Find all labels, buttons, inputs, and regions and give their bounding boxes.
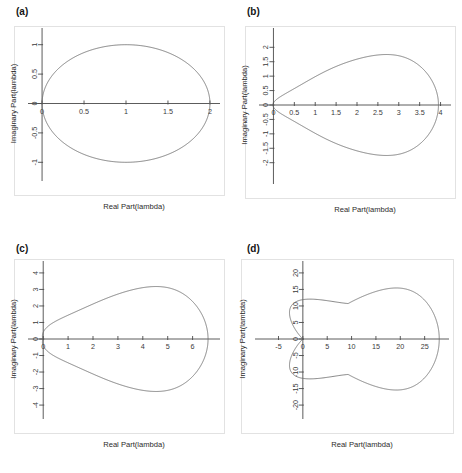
x-tick-label: 6 — [191, 342, 195, 351]
x-tick-label: 1.5 — [331, 108, 341, 117]
x-tick-label: 15 — [372, 342, 380, 351]
y-tick-label: -15 — [291, 383, 300, 393]
panel-b-plot: 00.511.522.533.5421.510.50-0.5-1-1.5-2Re… — [231, 0, 462, 236]
panel-c: (c) 012345643210-1-2-3-4Real Part(lambda… — [0, 237, 231, 473]
stability-region-figure: (a) 00.511.5210.50-0.5-1Real Part(lambda… — [0, 0, 462, 473]
y-tick-label: -0.5 — [261, 113, 270, 125]
x-tick-label: 1 — [124, 107, 128, 116]
y-tick-label: -2 — [31, 369, 40, 375]
x-tick-label: 1 — [66, 342, 70, 351]
x-tick-label: 4 — [141, 342, 145, 351]
y-tick-label: 2 — [31, 304, 40, 308]
y-tick-label: 1 — [261, 74, 270, 78]
y-tick-label: 1.5 — [261, 57, 270, 67]
y-axis-title: Imaginary Part(lambda) — [9, 63, 18, 143]
y-tick-label: 3 — [31, 287, 40, 291]
y-tick-label: -4 — [31, 402, 40, 408]
y-tick-label: -20 — [291, 400, 300, 410]
y-tick-label: 1 — [30, 43, 39, 47]
y-tick-label: -1.5 — [261, 142, 270, 154]
y-tick-label: 0.5 — [261, 86, 270, 96]
y-tick-label: 1 — [31, 320, 40, 324]
x-tick-label: 10 — [348, 342, 356, 351]
x-tick-label: 1 — [313, 108, 317, 117]
y-tick-label: 0 — [261, 103, 270, 107]
x-tick-label: 4 — [439, 108, 443, 117]
x-tick-label: 20 — [396, 342, 404, 351]
y-tick-label: 2 — [261, 45, 270, 49]
x-tick-label: 5 — [166, 342, 170, 351]
x-tick-label: 0.5 — [289, 108, 299, 117]
panel-d: (d) -5051015202520151050-5-10-15-20Real … — [231, 237, 462, 473]
y-tick-label: -1 — [30, 159, 39, 165]
y-axis-title: Imaginary Part(lambda) — [240, 65, 249, 145]
x-tick-label: 0.5 — [79, 107, 89, 116]
y-axis-title: Imaginary Part(lambda) — [9, 299, 18, 379]
x-tick-label: -5 — [275, 342, 281, 351]
panel-a-plot: 00.511.5210.50-0.5-1Real Part(lambda)Ima… — [0, 0, 231, 236]
y-tick-label: 0 — [30, 102, 39, 106]
x-tick-label: 1.5 — [163, 107, 173, 116]
y-tick-label: 0 — [291, 337, 300, 341]
x-tick-label: 3.5 — [415, 108, 425, 117]
y-tick-label: 0.5 — [30, 69, 39, 79]
panel-a: (a) 00.511.5210.50-0.5-1Real Part(lambda… — [0, 0, 231, 236]
x-tick-label: 3 — [116, 342, 120, 351]
y-tick-label: -1 — [261, 131, 270, 137]
panel-c-plot: 012345643210-1-2-3-4Real Part(lambda)Ima… — [0, 237, 231, 473]
y-tick-label: -3 — [31, 385, 40, 391]
x-tick-label: 5 — [325, 342, 329, 351]
x-tick-label: 0 — [301, 342, 305, 351]
x-tick-label: 2 — [355, 108, 359, 117]
x-tick-label: 25 — [421, 342, 429, 351]
y-tick-label: 4 — [31, 271, 40, 275]
x-axis-title: Real Part(lambda) — [331, 440, 393, 449]
y-tick-label: 15 — [291, 285, 300, 293]
y-tick-label: 20 — [291, 269, 300, 277]
x-tick-label: 3 — [397, 108, 401, 117]
y-tick-label: -0.5 — [30, 127, 39, 139]
x-axis-title: Real Part(lambda) — [334, 205, 396, 214]
y-tick-label: 10 — [291, 302, 300, 310]
y-axis-title: Imaginary Part(lambda) — [238, 299, 247, 379]
y-tick-label: -1 — [31, 352, 40, 358]
x-axis-title: Real Part(lambda) — [103, 202, 165, 211]
y-tick-label: -2 — [261, 159, 270, 165]
x-axis-title: Real Part(lambda) — [103, 440, 165, 449]
y-tick-label: 0 — [31, 337, 40, 341]
x-tick-label: 2 — [91, 342, 95, 351]
x-tick-label: 2.5 — [373, 108, 383, 117]
panel-d-plot: -5051015202520151050-5-10-15-20Real Part… — [231, 237, 462, 473]
panel-b: (b) 00.511.522.533.5421.510.50-0.5-1-1.5… — [231, 0, 462, 236]
